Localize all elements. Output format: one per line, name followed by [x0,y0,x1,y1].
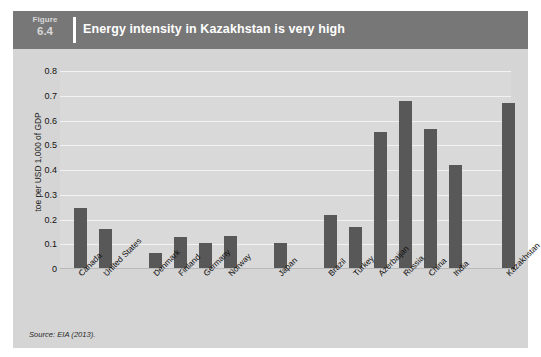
bar [374,132,387,269]
gridline [60,96,511,97]
gridline [60,195,511,196]
y-axis-tick-label: 0 [52,264,57,274]
gridline [60,71,511,72]
gridline [60,220,511,221]
figure-label-number: 6.4 [24,25,66,37]
figure-title: Energy intensity in Kazakhstan is very h… [83,22,345,36]
gridline [60,145,511,146]
figure-number-block: Figure 6.4 [24,16,66,44]
y-axis-tick-label: 0.6 [44,116,57,126]
y-axis-tick-labels: 0.80.70.60.50.40.30.20.10 [27,49,57,279]
bar [74,208,87,269]
source-note: Source: EIA (2013). [29,330,95,339]
bar [424,129,437,269]
figure-root: Figure 6.4 Energy intensity in Kazakhsta… [0,0,541,357]
gridline [60,170,511,171]
figure-label-word: Figure [24,16,66,24]
chart-body: toe per USD 1,000 of GDP 0.80.70.60.50.4… [13,49,528,348]
y-axis-tick-label: 0.4 [44,165,57,175]
bar [449,165,462,269]
gridline [60,121,511,122]
figure-header: Figure 6.4 Energy intensity in Kazakhsta… [13,11,528,49]
y-axis-tick-label: 0.1 [44,239,57,249]
bar [502,103,515,269]
plot-area [60,71,511,269]
figure-card: Figure 6.4 Energy intensity in Kazakhsta… [13,11,528,348]
x-axis-category-labels: CanadaUnited StatesDenmarkFinlandGermany… [60,271,511,329]
y-axis-tick-label: 0.7 [44,91,57,101]
y-axis-tick-label: 0.2 [44,215,57,225]
y-axis-tick-label: 0.8 [44,66,57,76]
header-divider [73,17,76,43]
y-axis-tick-label: 0.3 [44,190,57,200]
y-axis-tick-label: 0.5 [44,140,57,150]
